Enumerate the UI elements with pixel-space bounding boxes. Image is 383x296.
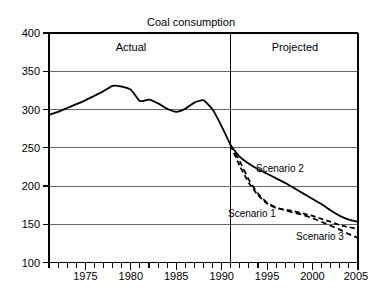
y-label-300: 300	[22, 104, 40, 116]
series-label-scenario-2: Scenario 2	[256, 163, 304, 174]
coal-consumption-chart: 400 350 300 250 200 150 100 1975 1980 19…	[0, 0, 383, 296]
x-label-2000: 2000	[300, 270, 324, 282]
region-label-actual: Actual	[116, 41, 147, 53]
series-label-scenario-3: Scenario 3	[296, 231, 344, 242]
y-label-350: 350	[22, 65, 40, 77]
y-label-400: 400	[22, 27, 40, 39]
chart-title: Coal consumption	[147, 16, 235, 28]
x-label-1995: 1995	[255, 270, 279, 282]
series-label-scenario-1: Scenario 1	[228, 208, 276, 219]
y-label-250: 250	[22, 142, 40, 154]
x-label-1990: 1990	[209, 270, 233, 282]
x-label-1975: 1975	[73, 270, 97, 282]
x-label-1985: 1985	[164, 270, 188, 282]
region-label-projected: Projected	[272, 41, 318, 53]
y-label-200: 200	[22, 180, 40, 192]
y-label-150: 150	[22, 218, 40, 230]
x-label-2005: 2005	[344, 270, 368, 282]
x-label-1980: 1980	[119, 270, 143, 282]
y-label-100: 100	[22, 257, 40, 269]
chart-container: 400 350 300 250 200 150 100 1975 1980 19…	[0, 0, 383, 296]
